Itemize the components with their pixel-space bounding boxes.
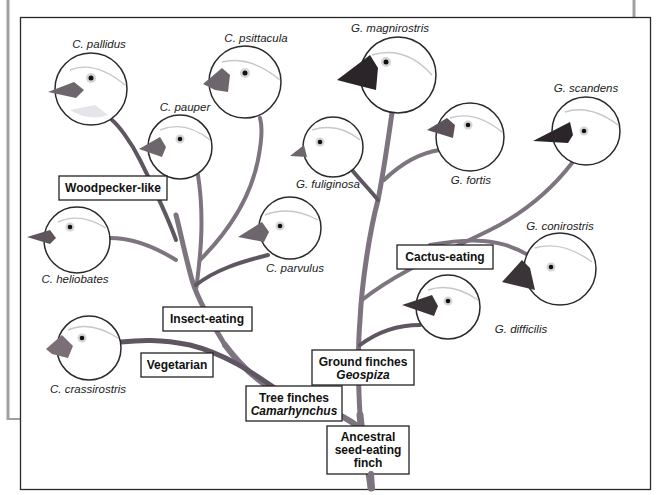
svg-text:Vegetarian: Vegetarian	[147, 358, 208, 372]
svg-text:seed-eating: seed-eating	[335, 443, 402, 457]
box-ancestral-finch: Ancestral seed-eating finch	[327, 426, 409, 474]
svg-text:Cactus-eating: Cactus-eating	[405, 250, 484, 264]
svg-text:Ground finches: Ground finches	[319, 355, 408, 369]
species-label-c-psittacula: C. psittacula	[224, 32, 287, 44]
svg-text:Geospiza: Geospiza	[336, 368, 390, 382]
svg-text:Camarhynchus: Camarhynchus	[251, 404, 338, 418]
species-label-g-conirostris: G. conirostris	[526, 220, 594, 232]
box-ground-finches: Ground finches Geospiza	[312, 350, 414, 385]
species-label-c-crassirostris: C. crassirostris	[50, 383, 126, 395]
species-label-g-fuliginosa: G. fuliginosa	[296, 178, 360, 190]
svg-text:Ancestral: Ancestral	[341, 430, 396, 444]
species-label-c-parvulus: C. parvulus	[266, 262, 324, 274]
svg-text:Tree finches: Tree finches	[259, 391, 329, 405]
species-label-g-magnirostris: G. magnirostris	[351, 22, 429, 34]
box-insect-eating: Insect-eating	[163, 307, 252, 331]
svg-text:Woodpecker-like: Woodpecker-like	[65, 181, 161, 195]
species-label-c-pauper: C. pauper	[160, 101, 212, 113]
box-cactus-eating: Cactus-eating	[397, 245, 493, 269]
species-label-c-heliobates: C. heliobates	[41, 273, 108, 285]
box-woodpecker-like: Woodpecker-like	[59, 176, 167, 200]
species-label-c-pallidus: C. pallidus	[72, 38, 126, 50]
svg-text:Insect-eating: Insect-eating	[170, 312, 244, 326]
svg-text:finch: finch	[354, 456, 383, 470]
species-label-g-fortis: G. fortis	[451, 174, 492, 186]
finch-radiation-diagram: C. pallidus C. psittacula C. pauper C. h…	[0, 0, 667, 495]
species-label-g-scandens: G. scandens	[554, 82, 619, 94]
species-label-g-difficilis: G. difficilis	[495, 323, 548, 335]
box-vegetarian: Vegetarian	[141, 353, 213, 377]
trunk-base	[371, 474, 372, 488]
box-tree-finches: Tree finches Camarhynchus	[246, 386, 342, 421]
